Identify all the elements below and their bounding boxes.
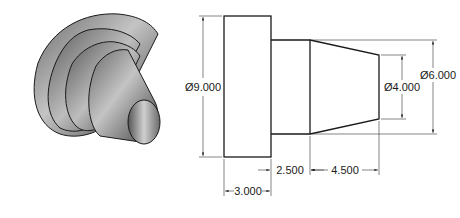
ortho-taper	[310, 40, 379, 134]
dim-dia-small: Ø4.000	[384, 81, 420, 93]
drawing-canvas: Ø9.000 Ø6.000 Ø4.000 3.000 2.500 4.500	[0, 0, 460, 218]
dim-len-shoulder: 2.500	[276, 164, 304, 176]
isometric-view	[34, 14, 160, 144]
dim-dia-mid: Ø6.000	[420, 69, 456, 81]
ortho-shoulder	[271, 40, 310, 134]
dim-len-flange: 3.000	[234, 185, 262, 197]
dim-dia-large: Ø9.000	[185, 81, 221, 93]
dim-len-taper: 4.500	[331, 164, 359, 176]
ortho-flange	[224, 16, 271, 157]
ortho-view: Ø9.000 Ø6.000 Ø4.000 3.000 2.500 4.500	[185, 16, 460, 197]
iso-end-face	[128, 100, 160, 144]
